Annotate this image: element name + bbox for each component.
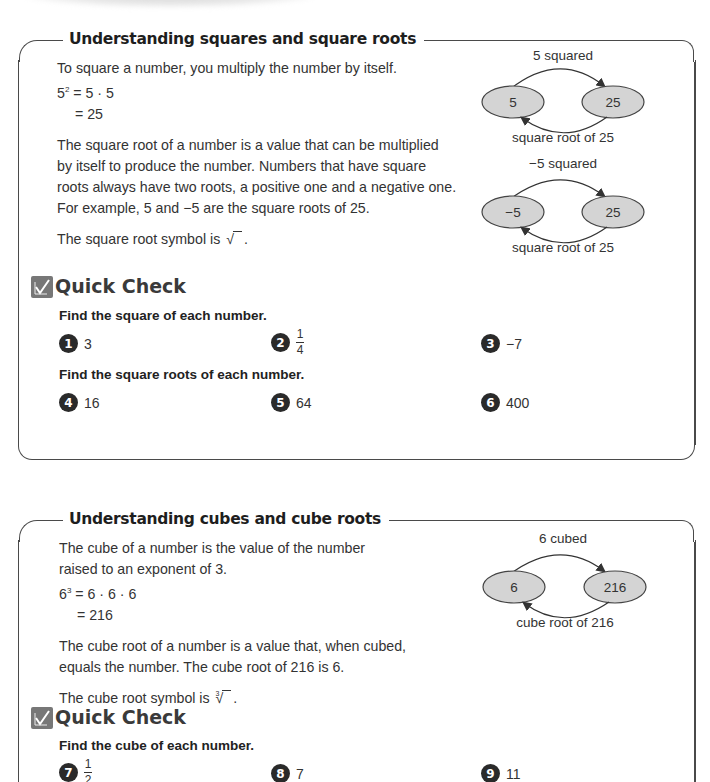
equation-line-2: = 25 (57, 104, 457, 125)
cube-diagram: 6 cubed 6 216 cube root of 216 (424, 525, 694, 639)
symbol-line: The square root symbol is √. (57, 229, 457, 250)
exercise-number-badge: 8 (271, 764, 290, 782)
square-diagram-positive: 5 squared 5 25 square root of 25 (424, 38, 694, 152)
square-root-symbol: √ (224, 229, 244, 250)
exercise-number-badge: 9 (481, 764, 500, 782)
fraction: 14 (296, 328, 304, 357)
checkmark-icon (31, 707, 53, 729)
exercise-4: 4 16 (59, 393, 100, 412)
instruction-cubes: Find the cube of each number. (59, 738, 254, 753)
header-decoration (20, 0, 320, 8)
exercise-number-badge: 5 (271, 393, 290, 412)
equation-line-1: 52 = 5 · 5 (57, 79, 457, 104)
definition-paragraph: The cube root of a number is a value tha… (59, 636, 439, 678)
instruction-square-roots: Find the square roots of each number. (59, 367, 304, 382)
exercise-6: 6 400 (481, 393, 529, 412)
definition-paragraph: The square root of a number is a value t… (57, 135, 457, 219)
diagram-top-label: 6 cubed (539, 531, 587, 546)
diagram-right-value: 25 (605, 205, 620, 220)
exercise-number-badge: 3 (481, 334, 500, 353)
section-title: Understanding cubes and cube roots (69, 510, 389, 528)
exercise-5: 5 64 (271, 393, 312, 412)
checkmark-icon (31, 276, 53, 298)
section-title: Understanding squares and square roots (69, 30, 424, 48)
square-diagram-negative: −5 squared −5 25 square root of 25 (424, 150, 694, 264)
section-squares: Understanding squares and square roots T… (18, 40, 695, 460)
diagram-right-value: 216 (604, 580, 627, 595)
intro-text: To square a number, you multiply the num… (57, 58, 457, 79)
diagram-top-label: −5 squared (529, 156, 597, 171)
quick-check-heading: Quick Check (31, 706, 186, 728)
fraction: 12 (84, 758, 92, 782)
diagram-left-value: −5 (505, 205, 520, 220)
diagram-bottom-label: square root of 25 (512, 130, 614, 145)
exercise-number-badge: 6 (481, 393, 500, 412)
exercise-1: 1 3 (59, 334, 92, 353)
diagram-left-value: 5 (509, 95, 517, 110)
cube-root-symbol: 3√ (214, 688, 234, 711)
quick-check-heading: Quick Check (31, 275, 186, 297)
exercise-2: 2 14 (271, 328, 304, 357)
diagram-bottom-label: cube root of 216 (516, 615, 614, 630)
exercise-number-badge: 4 (59, 393, 78, 412)
squares-explanation: To square a number, you multiply the num… (57, 58, 457, 250)
exercise-number-badge: 1 (59, 334, 78, 353)
exercise-7: 7 12 (59, 758, 92, 782)
frame-line (41, 520, 63, 521)
exercise-9: 9 11 (481, 764, 521, 782)
equation-line-2: = 216 (59, 605, 439, 626)
exercise-number-badge: 7 (59, 763, 78, 782)
diagram-left-value: 6 (510, 580, 518, 595)
instruction-squares: Find the square of each number. (59, 308, 267, 323)
cubes-explanation: The cube of a number is the value of the… (59, 538, 439, 711)
diagram-right-value: 25 (605, 95, 620, 110)
diagram-top-label: 5 squared (533, 48, 593, 63)
section-cubes: Understanding cubes and cube roots The c… (18, 520, 695, 782)
exercise-8: 8 7 (271, 764, 304, 782)
intro-text: The cube of a number is the value of the… (59, 538, 439, 580)
diagram-bottom-label: square root of 25 (512, 240, 614, 255)
exercise-number-badge: 2 (271, 333, 290, 352)
exercise-3: 3 −7 (481, 334, 522, 353)
equation-line-1: 63 = 6 · 6 · 6 (59, 580, 439, 605)
frame-line (41, 40, 63, 41)
